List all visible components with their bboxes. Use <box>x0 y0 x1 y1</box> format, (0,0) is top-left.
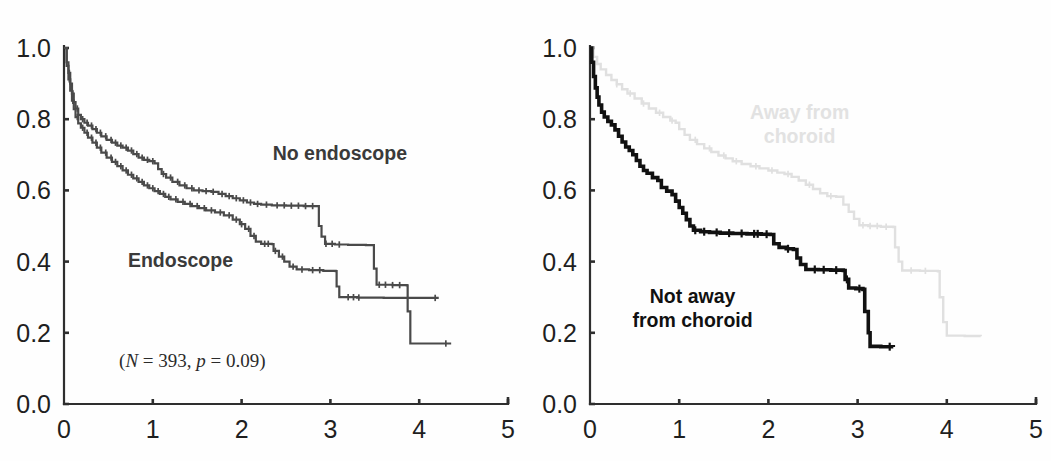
km-plot-right: 0.00.20.40.60.81.0012345Away fromchoroid… <box>525 0 1051 461</box>
x-axis-tick-label: 0 <box>583 415 597 443</box>
axes: 0.00.20.40.60.81.0012345 <box>16 34 515 443</box>
y-axis-tick-label: 1.0 <box>16 34 51 62</box>
km-plot-left: 0.00.20.40.60.81.0012345No endoscopeEndo… <box>0 0 525 461</box>
x-axis-tick-label: 5 <box>501 415 515 443</box>
y-axis-tick-label: 0.2 <box>542 319 577 347</box>
y-axis-tick-label: 0.4 <box>16 248 51 276</box>
km-curve <box>590 48 981 336</box>
x-axis-tick-label: 1 <box>146 415 160 443</box>
chart-panel-left: 0.00.20.40.60.81.0012345No endoscopeEndo… <box>0 0 525 461</box>
km-series <box>64 48 439 301</box>
x-axis-tick-label: 4 <box>940 415 954 443</box>
chart-panel-right: 0.00.20.40.60.81.0012345Away fromchoroid… <box>525 0 1051 461</box>
y-axis-tick-label: 0.2 <box>16 319 51 347</box>
y-axis-tick-label: 0.4 <box>542 248 577 276</box>
axes: 0.00.20.40.60.81.0012345 <box>542 34 1043 443</box>
x-axis-tick-label: 3 <box>323 415 337 443</box>
x-axis-tick-label: 0 <box>57 415 71 443</box>
x-axis-tick-label: 2 <box>235 415 249 443</box>
x-axis-tick-label: 1 <box>672 415 686 443</box>
km-censor-marks <box>69 70 446 347</box>
y-axis-tick-label: 1.0 <box>542 34 577 62</box>
km-curve <box>64 48 451 343</box>
not-away-from-choroid-label: Not awayfrom choroid <box>632 285 752 331</box>
y-axis-tick-label: 0.8 <box>542 105 577 133</box>
km-series <box>590 48 981 336</box>
x-axis-tick-label: 4 <box>412 415 426 443</box>
y-axis-tick-label: 0.0 <box>542 390 577 418</box>
km-series <box>64 48 451 347</box>
endoscope-label: Endoscope <box>128 249 233 271</box>
y-axis-tick-label: 0.6 <box>16 176 51 204</box>
km-censor-marks <box>69 76 435 301</box>
figure-canvas: 0.00.20.40.60.81.0012345No endoscopeEndo… <box>0 0 1051 461</box>
y-axis-tick-label: 0.6 <box>542 176 577 204</box>
x-axis-tick-label: 2 <box>761 415 775 443</box>
x-axis-tick-label: 3 <box>851 415 865 443</box>
y-axis-tick-label: 0.0 <box>16 390 51 418</box>
stats-label: (N = 393, p = 0.09) <box>119 350 266 372</box>
no-endoscope-label: No endoscope <box>273 142 408 164</box>
km-curve <box>64 48 439 298</box>
x-axis-tick-label: 5 <box>1029 415 1043 443</box>
y-axis-tick-label: 0.8 <box>16 105 51 133</box>
away-from-choroid-label: Away fromchoroid <box>750 101 849 147</box>
